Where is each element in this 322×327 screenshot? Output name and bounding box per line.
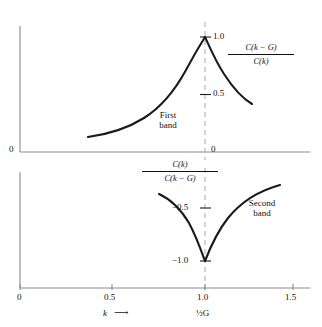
- figure-canvas: 1.0 0.5 0 0 C(k − G) C(k) First band C(k…: [0, 0, 322, 327]
- x-tick-label-1.0: 1.0: [197, 293, 208, 302]
- top-y-tick-label-1.0: 1.0: [213, 32, 224, 41]
- first-band-annotation: First band: [148, 110, 188, 131]
- x-axis-label: k: [103, 309, 107, 318]
- x-tick-label-0.5: 0.5: [104, 293, 115, 302]
- bottom-y-tick-label-minus-1.0: −1.0: [172, 256, 188, 265]
- first-band-annotation-line2: band: [159, 120, 177, 130]
- top-panel-origin-label: 0: [9, 145, 14, 154]
- second-band-annotation-line1: Second: [249, 198, 276, 208]
- first-band-ratio-label: C(k − G) C(k): [228, 42, 294, 66]
- bottom-y-tick-label-minus-0.5: −0.5: [172, 203, 188, 212]
- second-band-ratio-denominator: C(k − G): [142, 172, 218, 184]
- second-band-right-branch-curve: [205, 185, 280, 261]
- first-band-annotation-line1: First: [160, 110, 177, 120]
- second-band-annotation-line2: band: [253, 208, 271, 218]
- zone-boundary-label: ½G: [196, 309, 209, 318]
- x-tick-label-0: 0: [17, 293, 22, 302]
- x-axis-ticks: [20, 284, 293, 290]
- top-y-tick-label-0.5: 0.5: [213, 89, 224, 98]
- x-tick-label-1.5: 1.5: [285, 293, 296, 302]
- second-band-annotation: Second band: [238, 198, 286, 219]
- top-y-tick-label-zero: 0: [211, 145, 216, 154]
- second-band-ratio-label: C(k) C(k − G): [142, 159, 218, 183]
- first-band-ratio-denominator: C(k): [228, 55, 294, 67]
- x-axis-arrow-icon: ⟶: [114, 308, 128, 318]
- second-band-ratio-numerator: C(k): [142, 159, 218, 172]
- first-band-ratio-numerator: C(k − G): [228, 42, 294, 55]
